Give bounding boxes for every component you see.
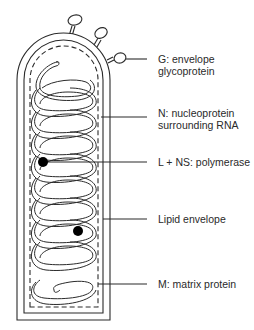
label-line: surrounding RNA (158, 119, 239, 131)
label-line: Lipid envelope (158, 213, 226, 225)
label-g-envelope-glycoprotein: G: envelope glycoprotein (158, 53, 215, 77)
polymerase-dot (73, 226, 83, 236)
glycoprotein-spike (67, 13, 83, 36)
label-l-ns-polymerase: L + NS: polymerase (158, 156, 250, 168)
label-lipid-envelope: Lipid envelope (158, 213, 226, 225)
polymerase-dot (38, 157, 48, 167)
label-line: N: nucleoprotein (158, 107, 239, 119)
label-line: L + NS: polymerase (158, 156, 250, 168)
glycoprotein-spike (107, 51, 127, 65)
label-n-nucleoprotein: N: nucleoprotein surrounding RNA (158, 107, 239, 131)
label-line: M: matrix protein (158, 278, 236, 290)
label-line: G: envelope (158, 53, 215, 65)
label-m-matrix-protein: M: matrix protein (158, 278, 236, 290)
label-line: glycoprotein (158, 65, 215, 77)
glycoprotein-spike (93, 25, 109, 47)
